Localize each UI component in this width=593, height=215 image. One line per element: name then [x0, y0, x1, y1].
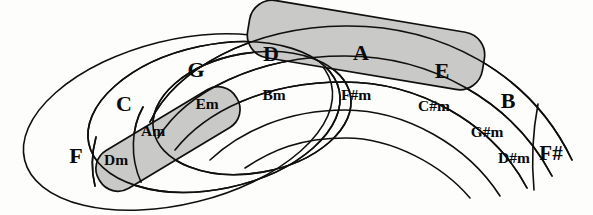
key-label-d[interactable]: D [263, 41, 279, 66]
overlay-radial-left [92, 137, 96, 186]
key-label-em[interactable]: Em [195, 95, 218, 112]
key-label-c-sharp-m[interactable]: C#m [418, 97, 450, 114]
key-label-e[interactable]: E [435, 58, 450, 83]
key-label-f-sharp[interactable]: F# [539, 141, 563, 165]
shaded-region-lower-minor[interactable] [88, 79, 248, 199]
key-label-d-sharp-m[interactable]: D#m [498, 149, 530, 166]
key-relationship-diagram: F C G D A E B F# Dm Am Em Bm F#m C#m G#m… [0, 0, 593, 215]
key-label-dm[interactable]: Dm [104, 151, 128, 168]
key-label-c[interactable]: C [116, 91, 132, 116]
key-label-g-sharp-m[interactable]: G#m [471, 123, 504, 140]
key-label-bm[interactable]: Bm [262, 86, 285, 103]
key-label-f-sharp-m[interactable]: F#m [341, 86, 371, 103]
key-label-b[interactable]: B [501, 88, 516, 113]
diagram-canvas: F C G D A E B F# Dm Am Em Bm F#m C#m G#m… [0, 0, 593, 215]
key-label-am[interactable]: Am [141, 122, 165, 139]
key-label-a[interactable]: A [353, 40, 369, 65]
key-label-g[interactable]: G [187, 57, 204, 82]
key-label-f[interactable]: F [69, 143, 82, 168]
